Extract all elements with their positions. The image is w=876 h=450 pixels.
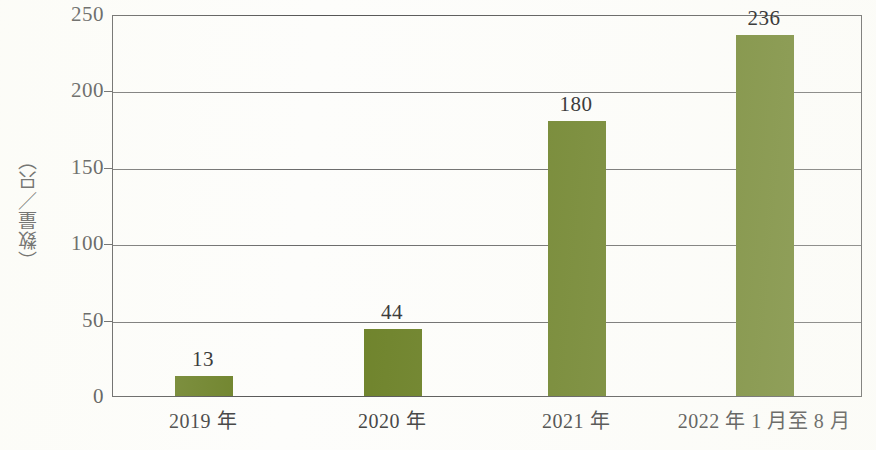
bar-value-label: 13 <box>143 349 263 370</box>
bar <box>175 376 233 396</box>
bar <box>364 329 422 396</box>
y-axis-tick-label: 100 <box>44 233 104 254</box>
bar <box>548 121 606 396</box>
y-axis-tick-label: 150 <box>44 157 104 178</box>
bar-value-label: 180 <box>516 94 636 115</box>
y-axis-tick-label: 50 <box>44 310 104 331</box>
x-axis-category-label: 2022 年 1 月至 8 月 <box>664 410 864 432</box>
plot-area <box>112 15 862 397</box>
bar-value-label: 236 <box>704 8 824 29</box>
y-axis-tick-label: 250 <box>44 4 104 25</box>
bar <box>736 35 794 396</box>
y-axis-ticks: 050100150200250 <box>34 15 104 397</box>
y-axis-tick-label: 0 <box>44 386 104 407</box>
y-axis-tick-label: 200 <box>44 80 104 101</box>
x-axis-category-label: 2019 年 <box>103 410 303 432</box>
x-axis-category-label: 2021 年 <box>476 410 676 432</box>
bar-value-label: 44 <box>332 302 452 323</box>
chart-page: （数量／只） 050100150200250 2019 年2020 年2021 … <box>0 0 876 450</box>
x-axis-category-label: 2020 年 <box>292 410 492 432</box>
